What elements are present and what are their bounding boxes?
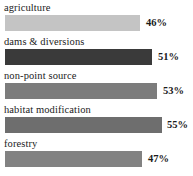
bar-value-label: 53% (163, 84, 184, 98)
bar-category-label: forestry (4, 138, 37, 150)
bar-row: 51% (0, 49, 193, 65)
bar-fill (5, 151, 142, 167)
bar-fill (5, 49, 152, 65)
bar-value-label: 46% (146, 16, 167, 30)
bar-row: 53% (0, 83, 193, 99)
bar-value-label: 55% (167, 118, 188, 132)
bar-category-label: agriculture (4, 2, 51, 14)
bar-row: 55% (0, 117, 193, 133)
bar-row: 47% (0, 151, 193, 167)
bar-row: 46% (0, 15, 193, 31)
bar-category-label: non-point source (4, 70, 76, 82)
bar-fill (5, 15, 140, 31)
bar-value-label: 47% (148, 152, 169, 166)
bar-value-label: 51% (158, 50, 179, 64)
bar-category-label: dams & diversions (4, 36, 84, 48)
bar-category-label: habitat modification (4, 104, 91, 116)
horizontal-bar-chart: agriculture 46% dams & diversions 51% no… (0, 0, 193, 176)
bar-fill (5, 117, 162, 133)
bar-fill (5, 83, 157, 99)
